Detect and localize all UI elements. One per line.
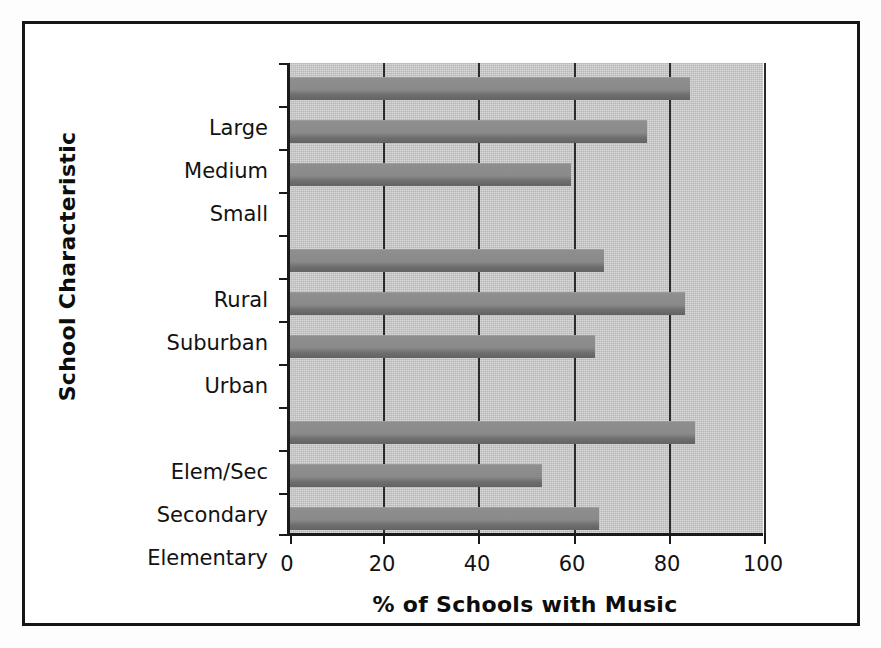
- y-tick-mark: [279, 63, 290, 65]
- y-tick-label-rural: Rural: [214, 290, 268, 311]
- x-tick-mark: [764, 533, 766, 544]
- x-tick-label-0: 0: [280, 554, 293, 575]
- y-tick-mark: [279, 450, 290, 452]
- x-axis-title: % of Schools with Music: [287, 592, 763, 617]
- bar-urban: [290, 335, 595, 358]
- y-tick-label-large: Large: [209, 118, 268, 139]
- x-tick-mark: [669, 533, 671, 544]
- bar-secondary: [290, 464, 542, 487]
- x-tick-mark: [383, 533, 385, 544]
- y-tick-mark: [279, 534, 290, 536]
- y-axis-tick-labels: Large Medium Small Rural Suburban Urban …: [25, 63, 268, 536]
- x-tick-label-40: 40: [464, 554, 491, 575]
- bar-large: [290, 77, 690, 100]
- y-tick-mark: [279, 192, 290, 194]
- gridline-100: [764, 63, 766, 536]
- y-tick-label-elem-sec: Elem/Sec: [171, 462, 268, 483]
- x-tick-label-80: 80: [654, 554, 681, 575]
- y-tick-mark: [279, 493, 290, 495]
- y-tick-mark: [279, 407, 290, 409]
- y-tick-mark: [279, 106, 290, 108]
- x-tick-label-20: 20: [369, 554, 396, 575]
- figure: School Characteristic Large Medium Small…: [0, 0, 881, 648]
- bar-small: [290, 163, 571, 186]
- bar-elem-sec: [290, 421, 695, 444]
- y-tick-label-medium: Medium: [184, 161, 268, 182]
- bar-medium: [290, 120, 647, 143]
- y-tick-mark: [279, 321, 290, 323]
- bar-suburban: [290, 292, 685, 315]
- x-tick-mark: [290, 533, 292, 544]
- x-tick-label-60: 60: [559, 554, 586, 575]
- bar-elementary: [290, 507, 599, 530]
- y-tick-label-suburban: Suburban: [167, 333, 268, 354]
- x-tick-mark: [478, 533, 480, 544]
- y-tick-mark: [279, 149, 290, 151]
- y-tick-mark: [279, 278, 290, 280]
- x-tick-label-100: 100: [743, 554, 783, 575]
- y-tick-mark: [279, 364, 290, 366]
- y-tick-label-urban: Urban: [204, 376, 268, 397]
- y-tick-mark: [279, 235, 290, 237]
- x-axis-tick-labels: 0 20 40 60 80 100: [25, 554, 881, 584]
- x-tick-mark: [574, 533, 576, 544]
- y-tick-label-small: Small: [210, 204, 268, 225]
- y-tick-label-secondary: Secondary: [157, 505, 268, 526]
- plot-area: [287, 63, 763, 536]
- bar-rural: [290, 249, 604, 272]
- chart-frame-border: School Characteristic Large Medium Small…: [22, 21, 860, 626]
